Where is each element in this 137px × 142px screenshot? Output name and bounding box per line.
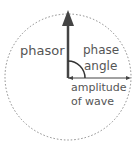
- phase-angle-label-line2: angle: [84, 60, 117, 72]
- phase-angle-arc: [68, 61, 85, 78]
- amplitude-arrowhead-right-icon: [126, 76, 131, 80]
- phasor-arrowhead-icon: [62, 10, 74, 26]
- amplitude-label-line1: amplitude: [71, 82, 127, 93]
- phasor-label: phasor: [20, 44, 65, 57]
- phase-angle-label-line1: phase: [83, 44, 119, 56]
- amplitude-label-line2: of wave: [71, 96, 114, 107]
